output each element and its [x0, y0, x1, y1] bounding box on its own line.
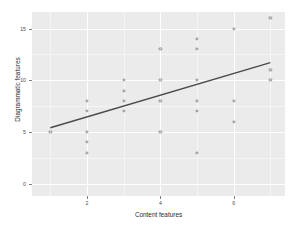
data-point — [49, 130, 52, 133]
data-point — [195, 79, 198, 82]
data-point — [85, 130, 88, 133]
data-point — [122, 79, 125, 82]
gridline-minor-vertical — [50, 12, 51, 196]
gridline-minor-horizontal — [32, 54, 285, 55]
gridline-minor-horizontal — [32, 158, 285, 159]
gridline-minor-horizontal — [32, 106, 285, 107]
gridline-major-vertical — [87, 12, 88, 196]
data-point — [85, 151, 88, 154]
y-axis-tick-label: 0 — [23, 180, 26, 187]
gridline-major-vertical — [160, 12, 161, 196]
y-axis-tick-label: 10 — [20, 77, 26, 84]
data-point — [85, 110, 88, 113]
gridline-minor-vertical — [270, 12, 271, 196]
y-axis-tick-label: 5 — [23, 128, 26, 135]
x-axis-title: Content features — [32, 210, 285, 219]
data-point — [269, 68, 272, 71]
data-point — [195, 110, 198, 113]
regression-line — [32, 12, 285, 196]
data-point — [269, 79, 272, 82]
data-point — [195, 37, 198, 40]
gridline-major-vertical — [234, 12, 235, 196]
data-point — [85, 141, 88, 144]
data-point — [195, 48, 198, 51]
x-axis-tick-mark — [160, 196, 161, 199]
data-point — [122, 110, 125, 113]
scatter-plot-figure: Content features Diagrammatic features 2… — [0, 0, 297, 233]
x-axis-tick-label: 4 — [159, 200, 162, 207]
data-point — [122, 99, 125, 102]
y-axis-tick-mark — [29, 184, 32, 185]
y-axis-tick-label: 15 — [20, 25, 26, 32]
data-point — [122, 89, 125, 92]
x-axis-tick-mark — [234, 196, 235, 199]
x-axis-tick-label: 6 — [232, 200, 235, 207]
data-point — [232, 99, 235, 102]
data-point — [159, 99, 162, 102]
gridline-minor-vertical — [124, 12, 125, 196]
gridline-major-horizontal — [32, 184, 285, 185]
data-point — [232, 27, 235, 30]
data-point — [159, 79, 162, 82]
y-axis-tick-mark — [29, 80, 32, 81]
data-point — [85, 99, 88, 102]
y-axis-tick-mark — [29, 132, 32, 133]
gridline-major-horizontal — [32, 29, 285, 30]
data-point — [195, 99, 198, 102]
plot-panel — [32, 12, 285, 196]
data-point — [159, 130, 162, 133]
y-axis-tick-mark — [29, 29, 32, 30]
data-point — [232, 120, 235, 123]
x-axis-tick-mark — [87, 196, 88, 199]
data-point — [195, 151, 198, 154]
y-axis-title: Diagrammatic features — [13, 25, 22, 155]
data-point — [269, 17, 272, 20]
x-axis-tick-label: 2 — [86, 200, 89, 207]
data-point — [159, 48, 162, 51]
